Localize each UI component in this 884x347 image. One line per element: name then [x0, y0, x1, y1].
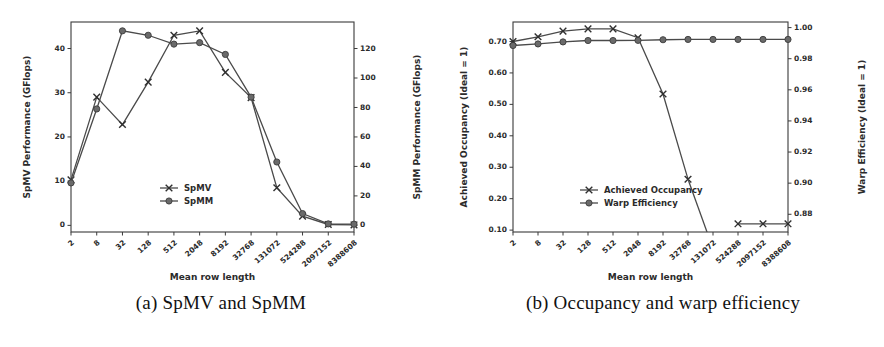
x-tick-label: 32 [114, 238, 128, 252]
y-axis-title: SpMV Performance (GFlops) [22, 56, 32, 199]
y2-tick-label: 0.90 [794, 178, 813, 187]
x-tick-label: 128 [136, 238, 154, 255]
figure-container: 2832128512204881923276813107252428820971… [0, 0, 884, 347]
legend-label: SpMV [184, 183, 212, 193]
x-tick-label: 8 [533, 238, 543, 248]
y2-tick-label: 60 [360, 132, 370, 141]
x-tick-label: 512 [161, 238, 179, 255]
y2-axis-title: SpMM Performance (GFlops) [412, 55, 422, 200]
y2-tick-label: 120 [360, 44, 376, 53]
y2-tick-label: 80 [360, 103, 370, 112]
y2-tick-label: 0.88 [794, 209, 813, 218]
subfigure-a: 2832128512204881923276813107252428820971… [0, 0, 442, 347]
legend-label: Warp Efficiency [604, 198, 678, 208]
series-line [513, 39, 788, 45]
y-tick-label: 0.50 [488, 99, 507, 108]
x-tick-label: 8192 [647, 238, 669, 259]
y-tick-label: 0.30 [488, 162, 507, 171]
x-tick-label: 2 [66, 238, 76, 248]
subfigure-b: 2832128512204881923276813107252428820971… [442, 0, 884, 347]
y2-tick-label: 1.00 [794, 23, 813, 32]
x-axis-title: Mean row length [608, 272, 694, 282]
y-tick-label: 0.10 [488, 225, 507, 234]
x-tick-label: 2048 [183, 238, 205, 259]
x-tick-label: 8 [92, 238, 102, 248]
x-tick-label: 2048 [622, 238, 644, 259]
y-axis-title: Achieved Occupancy (Ideal = 1) [459, 47, 469, 208]
x-tick-label: 8192 [209, 238, 231, 259]
y-tick-label: 20 [55, 132, 65, 141]
spmv-spmm-chart: 2832128512204881923276813107252428820971… [0, 0, 442, 292]
y-tick-label: 10 [55, 176, 65, 185]
series-2 [510, 36, 791, 48]
y2-tick-label: 0.94 [794, 116, 813, 125]
y2-tick-label: 0.96 [794, 85, 813, 94]
y-tick-label: 0 [60, 220, 65, 229]
x-tick-label: 128 [575, 238, 593, 255]
y-tick-label: 40 [55, 44, 65, 53]
y2-axis-title: Warp Efficiency (Ideal = 1) [857, 60, 867, 195]
legend: Achieved OccupancyWarp Efficiency [580, 185, 703, 208]
x-tick-label: 131072 [253, 238, 282, 266]
legend-label: Achieved Occupancy [604, 185, 703, 195]
y-tick-label: 0.20 [488, 194, 507, 203]
y2-tick-label: 0 [360, 220, 365, 229]
y2-tick-label: 0.98 [794, 54, 813, 63]
x-tick-label: 2 [508, 238, 518, 248]
series-line [513, 29, 688, 179]
subfigure-a-caption: (a) SpMV and SpMM [0, 292, 442, 314]
y-tick-label: 30 [55, 88, 65, 97]
subfigure-b-caption: (b) Occupancy and warp efficiency [442, 292, 884, 314]
y2-tick-label: 40 [360, 161, 370, 170]
x-tick-label: 32 [554, 238, 568, 252]
y-tick-label: 0.60 [488, 68, 507, 77]
y2-tick-label: 20 [360, 191, 370, 200]
y-tick-label: 0.40 [488, 131, 507, 140]
x-tick-label: 512 [600, 238, 618, 255]
x-tick-label: 131072 [689, 238, 718, 266]
legend-label: SpMM [184, 196, 213, 206]
legend: SpMVSpMM [160, 183, 213, 206]
clipped-segment [688, 179, 738, 292]
y-tick-label: 0.70 [488, 37, 507, 46]
y2-tick-label: 0.92 [794, 147, 813, 156]
x-axis-title: Mean row length [170, 272, 256, 282]
occupancy-warp-efficiency-chart: 2832128512204881923276813107252428820971… [442, 0, 884, 292]
y2-tick-label: 100 [360, 73, 376, 82]
